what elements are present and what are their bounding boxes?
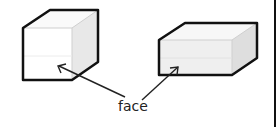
right-border [274,0,276,127]
cube-shape [23,10,98,80]
face-label: face [118,98,148,114]
cube-front-face [23,28,72,80]
